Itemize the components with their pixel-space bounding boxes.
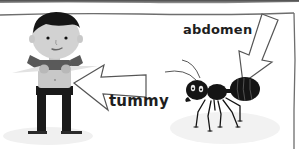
abdomen-label: abdomen: [183, 22, 252, 37]
boy-figure: [12, 12, 98, 134]
boy-shadow: [3, 127, 93, 145]
ant-shadow: [170, 112, 280, 144]
top-shadow-band: [0, 0, 299, 3]
tummy-label: tummy: [109, 92, 169, 110]
illustration: tummy abdomen: [0, 0, 299, 149]
